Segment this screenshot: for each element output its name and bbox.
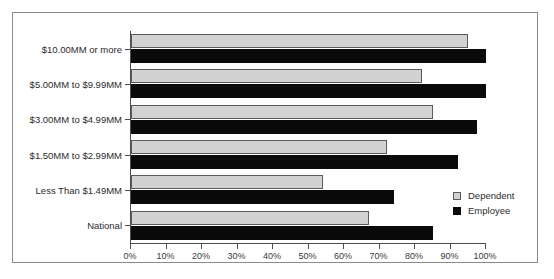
category-label: National	[87, 220, 122, 231]
category-label: $1.50MM to $2.99MM	[30, 149, 122, 160]
category-tick-mark	[125, 119, 130, 120]
x-tick-label: 70%	[369, 251, 387, 261]
bar-employee	[131, 84, 486, 98]
x-tick-label: 60%	[334, 251, 352, 261]
category-label: Less Than $1.49MM	[36, 184, 122, 195]
x-tick-mark	[166, 244, 167, 249]
x-tick-mark	[237, 244, 238, 249]
bar-employee	[131, 190, 394, 204]
x-tick-mark	[485, 244, 486, 249]
legend-swatch-dependent-icon	[453, 192, 461, 200]
x-tick-label: 80%	[405, 251, 423, 261]
category-label: $5.00MM to $9.99MM	[30, 78, 122, 89]
bar-dependent	[131, 69, 422, 83]
bar-group: Less Than $1.49MM	[130, 172, 485, 207]
bar-employee	[131, 226, 433, 240]
x-tick-mark	[343, 244, 344, 249]
bar-employee	[131, 155, 458, 169]
legend-swatch-employee-icon	[453, 207, 461, 215]
bar-dependent	[131, 211, 369, 225]
category-tick-mark	[125, 49, 130, 50]
x-tick-mark	[201, 244, 202, 249]
bar-group: $1.50MM to $2.99MM	[130, 137, 485, 172]
category-tick-mark	[125, 84, 130, 85]
bar-group: $3.00MM to $4.99MM	[130, 102, 485, 137]
legend-item[interactable]: Dependent	[453, 189, 514, 202]
bar-dependent	[131, 140, 387, 154]
bar-group: National	[130, 208, 485, 243]
bar-employee	[131, 120, 477, 134]
bar-group: $10.00MM or more	[130, 31, 485, 66]
category-label: $3.00MM to $4.99MM	[30, 114, 122, 125]
chart-legend: DependentEmployee	[453, 189, 514, 219]
x-tick-label: 0%	[123, 251, 136, 261]
x-tick-mark	[379, 244, 380, 249]
category-tick-mark	[125, 225, 130, 226]
x-tick-label: 10%	[156, 251, 174, 261]
category-tick-mark	[125, 155, 130, 156]
x-tick-mark	[414, 244, 415, 249]
bar-employee	[131, 49, 486, 63]
x-tick-mark	[308, 244, 309, 249]
x-tick-mark	[130, 244, 131, 249]
bar-group: $5.00MM to $9.99MM	[130, 66, 485, 101]
bar-dependent	[131, 34, 468, 48]
legend-label: Dependent	[468, 190, 514, 201]
legend-label: Employee	[468, 205, 510, 216]
x-tick-label: 30%	[227, 251, 245, 261]
x-tick-label: 40%	[263, 251, 281, 261]
category-tick-mark	[125, 190, 130, 191]
legend-item[interactable]: Employee	[453, 204, 514, 217]
x-tick-mark	[450, 244, 451, 249]
bar-dependent	[131, 175, 323, 189]
chart-frame: 0%10%20%30%40%50%60%70%80%90%100% $10.00…	[12, 12, 538, 263]
category-label: $10.00MM or more	[42, 43, 122, 54]
x-tick-label: 90%	[440, 251, 458, 261]
bar-dependent	[131, 105, 433, 119]
x-tick-label: 100%	[473, 251, 496, 261]
plot-area: 0%10%20%30%40%50%60%70%80%90%100% $10.00…	[130, 31, 485, 243]
x-tick-label: 20%	[192, 251, 210, 261]
x-tick-label: 50%	[298, 251, 316, 261]
x-tick-mark	[272, 244, 273, 249]
